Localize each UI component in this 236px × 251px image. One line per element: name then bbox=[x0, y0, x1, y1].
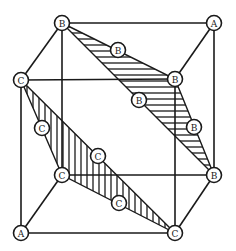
atom-b-midpoint: B bbox=[187, 120, 202, 135]
atom-label: C bbox=[116, 199, 123, 209]
atom-c-vertex: C bbox=[14, 73, 29, 88]
crystal-cube-diagram: BACBCBACBBBCCC bbox=[0, 0, 236, 251]
atom-b-midpoint: B bbox=[132, 93, 147, 108]
atom-c-midpoint: C bbox=[35, 121, 50, 136]
atom-b-vertex: B bbox=[55, 16, 70, 31]
atom-label: B bbox=[136, 96, 143, 106]
atom-label: C bbox=[59, 171, 66, 181]
atom-label: A bbox=[210, 19, 218, 29]
atom-label: C bbox=[18, 76, 25, 86]
atom-label: B bbox=[59, 19, 66, 29]
atom-label: B bbox=[211, 171, 218, 181]
atom-b-vertex: B bbox=[207, 168, 222, 183]
atom-a-vertex: A bbox=[14, 226, 29, 241]
atom-label: A bbox=[17, 229, 25, 239]
atom-label: C bbox=[172, 229, 179, 239]
atom-label: C bbox=[95, 152, 102, 162]
atom-label: B bbox=[115, 46, 122, 56]
atom-a-vertex: A bbox=[207, 16, 222, 31]
atom-b-vertex: B bbox=[168, 72, 183, 87]
atom-c-vertex: C bbox=[168, 226, 183, 241]
atom-label: C bbox=[39, 124, 46, 134]
atom-b-midpoint: B bbox=[111, 43, 126, 58]
atom-label: B bbox=[172, 75, 179, 85]
atom-c-midpoint: C bbox=[91, 149, 106, 164]
atom-label: B bbox=[191, 123, 198, 133]
atom-c-midpoint: C bbox=[112, 196, 127, 211]
atom-c-vertex: C bbox=[55, 168, 70, 183]
